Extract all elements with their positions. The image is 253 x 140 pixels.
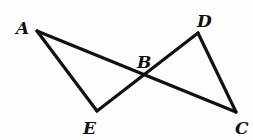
geometry-diagram: A B C D E (0, 0, 253, 140)
diagram-svg: A B C D E (0, 0, 253, 140)
label-d: D (196, 11, 212, 31)
segment-ed (97, 33, 198, 111)
label-a: A (14, 18, 29, 38)
label-b: B (136, 52, 151, 72)
label-c: C (235, 118, 249, 138)
label-e: E (82, 118, 97, 138)
